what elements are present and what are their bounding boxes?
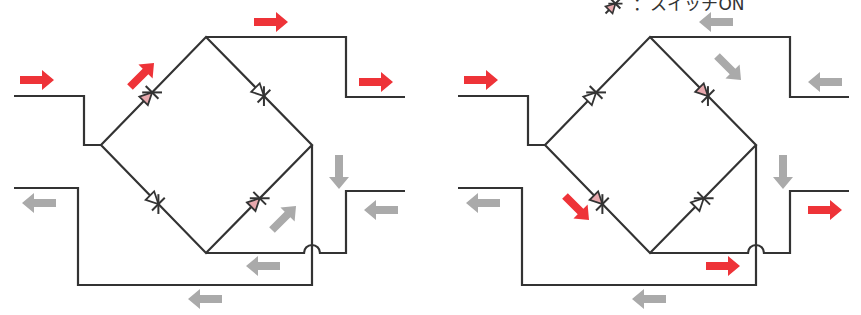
wires	[458, 37, 849, 285]
current-arrow-down-icon	[329, 155, 349, 189]
current-arrow-down-right-icon	[558, 189, 596, 227]
current-arrow-left-icon	[466, 193, 500, 213]
wire-segment	[458, 96, 545, 145]
current-arrow-left-icon	[246, 256, 280, 276]
wire-segment	[545, 37, 756, 253]
wire-segment	[14, 96, 101, 145]
diagram-left	[14, 12, 405, 309]
current-arrow-right-icon	[808, 200, 842, 220]
bridge-circuit-diagrams	[0, 0, 861, 315]
current-arrow-down-right-icon	[710, 49, 748, 87]
current-arrow-left-icon	[188, 289, 222, 309]
current-arrow-left-icon	[632, 289, 666, 309]
current-arrow-left-icon	[22, 193, 56, 213]
current-arrow-up-right-icon	[265, 199, 303, 237]
current-arrow-right-icon	[464, 70, 498, 90]
current-arrow-left-icon	[808, 72, 842, 92]
current-arrow-right-icon	[254, 12, 288, 32]
current-arrow-down-icon	[773, 155, 793, 189]
current-arrow-right-icon	[20, 70, 54, 90]
current-arrow-left-icon	[364, 200, 398, 220]
current-arrow-right-icon	[706, 256, 740, 276]
diagram-right	[458, 12, 849, 309]
wires	[14, 37, 405, 285]
current-arrow-left-icon	[699, 12, 733, 32]
current-arrow-right-icon	[359, 72, 393, 92]
